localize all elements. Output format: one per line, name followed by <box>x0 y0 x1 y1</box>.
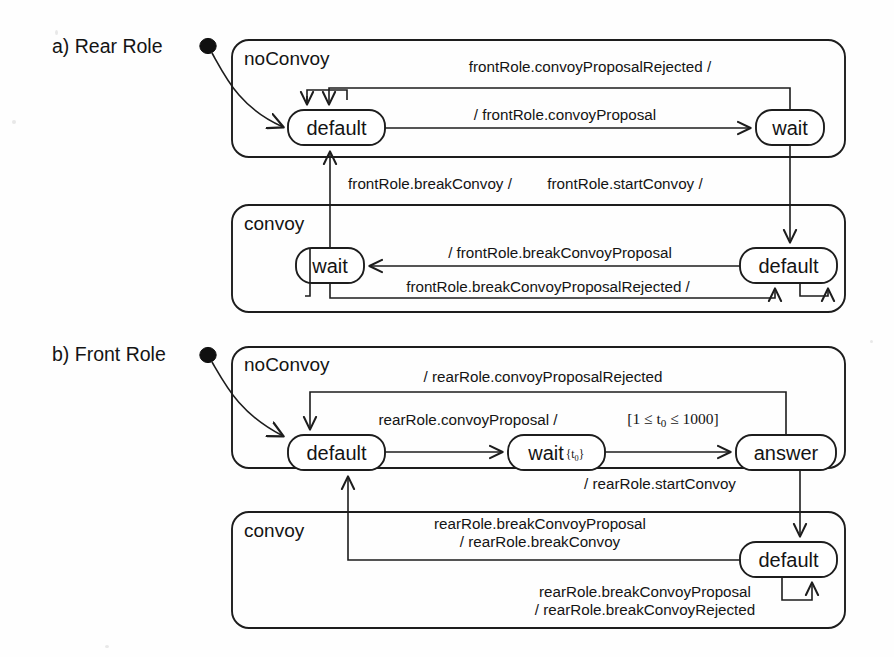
panel-a-initial-state-dot <box>200 38 216 53</box>
panel-b: b) Front Role noConvoy default wait {t0}… <box>52 343 845 628</box>
state-b-convoy-default-label: default <box>758 549 818 571</box>
transition-b-t1-label: rearRole.convoyProposal / <box>379 411 559 428</box>
scan-speck <box>870 340 873 343</box>
scan-speck <box>12 120 16 124</box>
transition-a-default-self-hook <box>307 90 347 103</box>
transition-a-t5-label: frontRole.breakConvoyProposalRejected / <box>406 278 690 295</box>
state-b-noconvoy-default-label: default <box>306 442 366 464</box>
region-a-convoy-label: convoy <box>244 213 305 234</box>
transition-b-convoy-default-self <box>782 577 812 600</box>
region-b-convoy-label: convoy <box>244 520 305 541</box>
state-a-convoy-default-label: default <box>758 255 818 277</box>
transition-a-t6-label: frontRole.breakConvoy / <box>348 175 513 192</box>
scan-speck <box>105 645 109 648</box>
panel-a: a) Rear Role noConvoy default wait / fro… <box>52 35 845 312</box>
state-a-convoy-wait-label: wait <box>311 255 348 277</box>
transition-b-t4-label: / rearRole.startConvoy <box>584 475 736 492</box>
region-a-noconvoy-label: noConvoy <box>244 48 330 69</box>
state-b-noconvoy-answer-label: answer <box>754 442 819 464</box>
region-b-noconvoy-label: noConvoy <box>244 354 330 375</box>
state-machine-diagram: a) Rear Role noConvoy default wait / fro… <box>0 0 894 657</box>
transition-a-t1-label: / frontRole.convoyProposal <box>474 106 656 123</box>
scan-speck <box>55 30 58 35</box>
state-a-noconvoy-default-label: default <box>306 117 366 139</box>
state-b-noconvoy-wait-label: wait <box>527 442 564 464</box>
transition-b-t5-label-line1: rearRole.breakConvoyProposal <box>434 515 646 532</box>
figure-canvas: a) Rear Role noConvoy default wait / fro… <box>0 0 894 657</box>
state-a-noconvoy-wait-label: wait <box>771 117 808 139</box>
transition-b-t5-label-line2: / rearRole.breakConvoy <box>460 533 621 550</box>
transition-b-t6-label-line1: rearRole.breakConvoyProposal <box>539 583 751 600</box>
transition-b-t2-guard-label: [1 ≤ t0 ≤ 1000] <box>627 410 719 429</box>
transition-a-t4-label: / frontRole.breakConvoyProposal <box>448 244 672 261</box>
transition-a-convoy-default-self <box>800 283 828 296</box>
transition-a-t3-label: frontRole.startConvoy / <box>547 175 703 192</box>
transition-a-t2-label: frontRole.convoyProposalRejected / <box>469 58 712 75</box>
panel-a-caption: a) Rear Role <box>52 35 163 57</box>
panel-b-caption: b) Front Role <box>52 343 166 365</box>
transition-b-t6-label-line2: / rearRole.breakConvoyRejected <box>535 601 755 618</box>
panel-b-initial-state-dot <box>200 347 216 362</box>
transition-b-t3-label: / rearRole.convoyProposalRejected <box>424 368 663 385</box>
